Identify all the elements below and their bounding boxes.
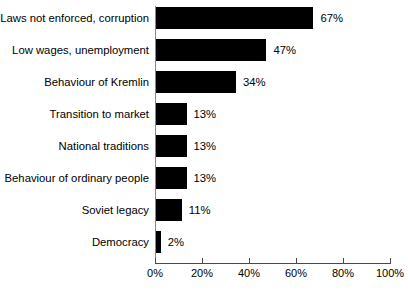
bar	[156, 167, 187, 189]
value-label: 34%	[243, 70, 266, 94]
bar-wrapper	[156, 230, 161, 254]
value-label: 13%	[194, 166, 217, 190]
category-label: Transition to market	[50, 102, 149, 126]
tick-mark	[296, 258, 297, 264]
bar-row: Behaviour of Kremlin34%	[0, 70, 408, 94]
tick-mark	[249, 258, 250, 264]
x-tick-label: 0%	[133, 267, 177, 280]
bar-row: Soviet legacy11%	[0, 198, 408, 222]
x-tick-label: 60%	[274, 267, 318, 280]
bar-chart: Laws not enforced, corruption67%Low wage…	[0, 0, 408, 292]
bar-wrapper	[156, 102, 187, 126]
tick-mark	[202, 258, 203, 264]
bar	[156, 7, 313, 29]
bar-row: Transition to market13%	[0, 102, 408, 126]
category-label: Laws not enforced, corruption	[0, 6, 149, 30]
tick-mark	[343, 258, 344, 264]
value-label: 11%	[189, 198, 211, 222]
x-tick-label: 80%	[321, 267, 365, 280]
value-label: 13%	[194, 134, 217, 158]
bar-row: Democracy2%	[0, 230, 408, 254]
category-label: Low wages, unemployment	[12, 38, 149, 62]
bar-row: Behaviour of ordinary people13%	[0, 166, 408, 190]
bar-row: National traditions13%	[0, 134, 408, 158]
bar	[156, 103, 187, 125]
value-label: 13%	[194, 102, 217, 126]
category-label: National traditions	[59, 134, 149, 158]
category-label: Behaviour of ordinary people	[5, 166, 149, 190]
x-tick-label: 100%	[368, 267, 408, 280]
bar-wrapper	[156, 198, 182, 222]
bar-wrapper	[156, 6, 313, 30]
bar-row: Low wages, unemployment47%	[0, 38, 408, 62]
x-tick-label: 20%	[180, 267, 224, 280]
tick-mark	[155, 258, 156, 264]
x-axis-line	[155, 263, 391, 264]
value-label: 2%	[168, 230, 184, 254]
bar	[156, 231, 161, 253]
bar-wrapper	[156, 134, 187, 158]
category-label: Soviet legacy	[82, 198, 149, 222]
value-label: 67%	[320, 6, 343, 30]
tick-mark	[390, 258, 391, 264]
category-label: Behaviour of Kremlin	[44, 70, 149, 94]
bar-wrapper	[156, 166, 187, 190]
bar	[156, 135, 187, 157]
bar-wrapper	[156, 38, 266, 62]
bar-wrapper	[156, 70, 236, 94]
category-label: Democracy	[92, 230, 149, 254]
x-tick-label: 40%	[227, 267, 271, 280]
bar-row: Laws not enforced, corruption67%	[0, 6, 408, 30]
bar	[156, 39, 266, 61]
bar	[156, 71, 236, 93]
plot-area: Laws not enforced, corruption67%Low wage…	[0, 0, 408, 292]
value-label: 47%	[273, 38, 296, 62]
bar	[156, 199, 182, 221]
